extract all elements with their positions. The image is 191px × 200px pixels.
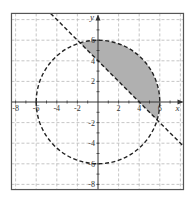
y-tick-label: -8 — [88, 180, 95, 189]
x-tick-label: 6 — [158, 104, 162, 113]
x-tick-label: 2 — [117, 104, 121, 113]
x-tick-label: -8 — [12, 104, 19, 113]
y-tick-label: 6 — [91, 36, 95, 45]
y-tick-label: 2 — [91, 77, 95, 86]
y-tick-label: -2 — [88, 119, 95, 128]
dashed-line — [51, 13, 184, 146]
y-tick-label: -6 — [88, 160, 95, 169]
x-tick-label: -2 — [74, 104, 81, 113]
y-tick-label: -4 — [88, 139, 95, 148]
graph: -8-6-4-2246-8-6-4-2246 x y — [0, 0, 191, 200]
x-axis-label: x — [174, 103, 179, 113]
x-tick-label: -4 — [53, 104, 60, 113]
x-tick-label: -6 — [33, 104, 40, 113]
x-tick-label: 4 — [137, 104, 141, 113]
y-tick-label: 4 — [91, 57, 95, 66]
